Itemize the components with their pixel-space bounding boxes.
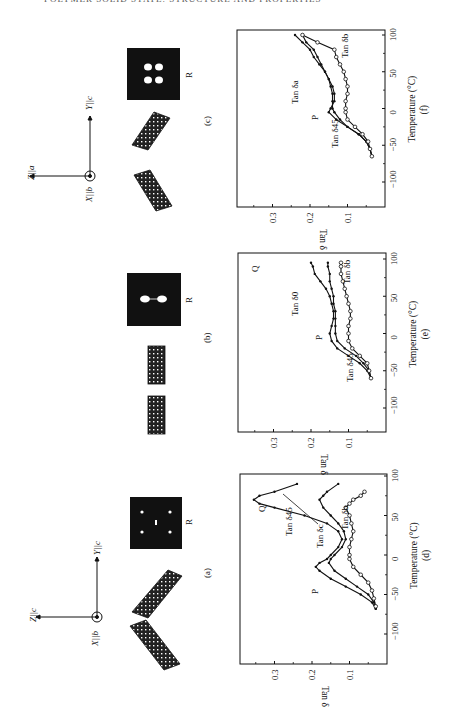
data-point	[359, 494, 363, 498]
pattern-label-R: R	[184, 297, 194, 303]
data-point	[374, 605, 378, 609]
data-point	[361, 132, 365, 136]
y-tick-label: 0.3	[268, 212, 278, 223]
x-tick-label: 50	[389, 294, 399, 303]
curve-annotation: Tan δ45	[330, 119, 340, 148]
data-point	[294, 34, 296, 36]
curve-annotation: P	[314, 335, 324, 340]
data-point	[333, 48, 337, 52]
data-point	[319, 280, 321, 282]
data-point	[327, 265, 329, 267]
data-point	[347, 332, 351, 336]
data-point	[330, 554, 332, 556]
data-point	[348, 545, 352, 549]
figure: Z||a Y||c X||b R (c) R (b)	[0, 0, 452, 726]
x-tick-label: 100	[389, 252, 399, 265]
panel-label-b: (b)	[202, 333, 212, 344]
curve-annotation: Tan δb	[340, 505, 350, 530]
data-point	[334, 317, 336, 319]
data-point	[332, 303, 334, 305]
data-point	[370, 154, 374, 158]
chart-d: −100−500501000.30.20.1Temperature (°C)(d…	[240, 469, 432, 707]
data-point	[347, 324, 351, 328]
curve-annotation: Tan δc	[315, 524, 325, 548]
data-point	[343, 287, 347, 291]
data-point	[316, 56, 318, 58]
data-point	[322, 495, 324, 497]
data-point	[359, 573, 363, 577]
curve-annotation: Tan δ0	[290, 291, 300, 316]
x-tick-label: −50	[388, 138, 398, 151]
x-tick-label: −100	[388, 170, 398, 188]
data-point	[326, 558, 328, 560]
data-point	[337, 546, 339, 548]
data-point	[353, 125, 357, 129]
x-tick-label: 50	[388, 69, 398, 78]
x-tick-label: 50	[390, 513, 400, 522]
y-tick-label: 0.1	[345, 669, 355, 680]
diffraction-pattern-c	[127, 48, 180, 100]
data-point	[372, 597, 376, 601]
data-point	[365, 362, 369, 366]
data-point	[346, 126, 348, 128]
data-point	[358, 133, 360, 135]
curve-annotation: Tan δb	[340, 33, 350, 58]
data-point	[330, 340, 332, 342]
pattern-label-R: R	[184, 519, 194, 525]
data-point	[331, 93, 333, 95]
data-point	[329, 295, 331, 297]
data-point	[313, 56, 315, 58]
data-point	[258, 502, 260, 504]
data-point	[346, 92, 350, 96]
data-point	[328, 562, 330, 564]
data-point	[253, 499, 255, 501]
curve-annotation: Q	[250, 265, 260, 272]
data-point	[318, 499, 320, 501]
lamellae-stack-icon	[132, 112, 172, 211]
panel-label-c: (c)	[202, 116, 212, 126]
data-point	[345, 538, 347, 540]
data-point	[330, 514, 332, 516]
panel-label: (e)	[420, 329, 431, 340]
data-point	[325, 288, 327, 290]
data-point	[336, 347, 338, 349]
data-point	[350, 522, 354, 526]
data-point	[329, 273, 331, 275]
panel-label: (d)	[421, 550, 432, 561]
data-point	[342, 70, 346, 74]
data-point	[363, 490, 367, 494]
data-point	[345, 578, 347, 580]
axis-label-x: X||b	[84, 187, 94, 203]
data-point	[344, 347, 346, 349]
data-point	[351, 530, 355, 534]
data-point	[310, 262, 312, 264]
data-point	[347, 339, 351, 343]
data-point	[351, 565, 355, 569]
pattern-label-R: R	[184, 72, 194, 78]
data-point	[333, 554, 335, 556]
data-point	[366, 581, 370, 585]
curve-annotation: Q	[257, 505, 267, 512]
plot-frame	[238, 253, 386, 432]
data-point	[326, 522, 328, 524]
data-point	[301, 33, 305, 37]
x-tick-label: 0	[389, 335, 399, 339]
y-axis-title: Tan δ	[318, 229, 328, 250]
axis-label-y: Y||c	[84, 96, 94, 110]
curve-annotation: P	[310, 115, 320, 120]
data-point	[333, 570, 335, 572]
structure-panel-a: Z||c Y||c X||b R (a)	[28, 497, 212, 670]
data-point	[296, 483, 298, 485]
data-point	[367, 593, 369, 595]
axes-triad-c	[30, 116, 95, 181]
x-tick-label: 0	[390, 557, 400, 561]
y-tick-label: 0.2	[307, 669, 317, 680]
data-point	[328, 78, 330, 80]
diffraction-pattern-b	[127, 273, 181, 326]
axis-label-y: Y||c	[92, 541, 102, 555]
data-point	[344, 110, 348, 114]
structure-panel-c: Z||a Y||c X||b R (c)	[26, 48, 212, 211]
y-tick-label: 0.3	[269, 437, 279, 448]
data-point	[344, 77, 348, 81]
x-axis-title: Temperature (°C)	[407, 76, 418, 143]
